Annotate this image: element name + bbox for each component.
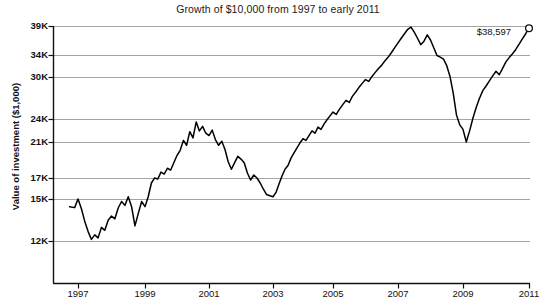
gridlines (54, 27, 531, 242)
data-series-line (70, 27, 529, 239)
axis-ticks (49, 27, 530, 289)
plot-area (0, 0, 556, 308)
chart-container: Growth of $10,000 from 1997 to early 201… (0, 0, 556, 308)
endpoint-marker (526, 25, 533, 32)
